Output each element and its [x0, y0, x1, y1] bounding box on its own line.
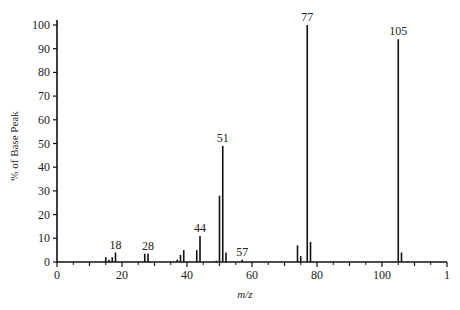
- x-axis-title: m/z: [237, 288, 253, 300]
- x-tick-label: 20: [116, 268, 128, 282]
- x-tick-label: 1: [444, 268, 450, 282]
- mass-spectrum-chart: 0102030405060708090100 0204060801001 182…: [0, 0, 460, 310]
- y-tick-label: 60: [38, 113, 50, 127]
- peak-label: 18: [110, 238, 122, 252]
- x-tick-label: 40: [181, 268, 193, 282]
- peak-label: 57: [236, 245, 248, 259]
- peak-label: 105: [389, 24, 407, 38]
- x-tick-label: 80: [311, 268, 323, 282]
- y-tick-label: 90: [38, 42, 50, 56]
- y-tick-label: 70: [38, 89, 50, 103]
- peak-label: 77: [301, 10, 313, 24]
- x-tick-label: 60: [246, 268, 258, 282]
- y-tick-label: 80: [38, 65, 50, 79]
- x-tick-label: 100: [373, 268, 391, 282]
- peak-label: 51: [217, 131, 229, 145]
- peaks: 182844515777105: [106, 10, 408, 262]
- y-tick-label: 20: [38, 208, 50, 222]
- peak-label: 28: [142, 239, 154, 253]
- y-axis-title: % of Base Peak: [8, 111, 20, 181]
- x-axis: 0204060801001: [54, 262, 450, 282]
- x-tick-label: 0: [54, 268, 60, 282]
- y-tick-label: 10: [38, 231, 50, 245]
- y-axis: 0102030405060708090100: [32, 18, 57, 269]
- y-tick-label: 0: [44, 255, 50, 269]
- y-tick-label: 40: [38, 160, 50, 174]
- peak-label: 44: [194, 221, 206, 235]
- y-tick-label: 50: [38, 137, 50, 151]
- y-tick-label: 30: [38, 184, 50, 198]
- y-tick-label: 100: [32, 18, 50, 32]
